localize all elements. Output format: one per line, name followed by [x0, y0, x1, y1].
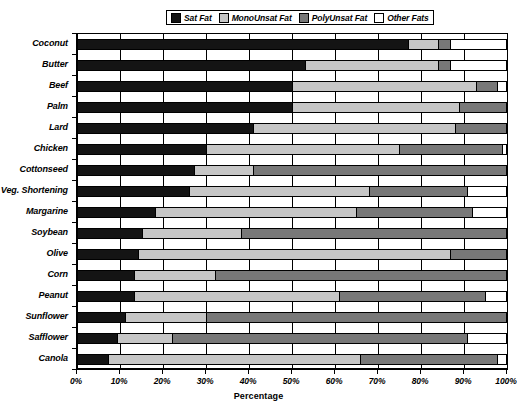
y-axis-label: Canola — [39, 353, 68, 363]
bar-segment — [497, 355, 506, 364]
stacked-bar[interactable] — [77, 186, 507, 197]
x-axis-tick-label: 30% — [197, 376, 214, 386]
stacked-bar[interactable] — [77, 333, 507, 344]
bar-row — [77, 144, 507, 155]
stacked-bar[interactable] — [77, 165, 507, 176]
stacked-bar[interactable] — [77, 60, 507, 71]
y-axis-label: Veg. Shortening — [1, 185, 68, 195]
bar-row — [77, 123, 507, 134]
bar-segment — [438, 61, 451, 70]
stacked-bar[interactable] — [77, 249, 507, 260]
stacked-bar[interactable] — [77, 312, 507, 323]
y-axis-tick — [72, 54, 76, 55]
bar-segment — [450, 40, 506, 49]
legend-label: Other Fats — [387, 13, 429, 23]
bar-segment — [215, 271, 506, 280]
bar-segment — [502, 145, 506, 154]
stacked-bar[interactable] — [77, 270, 507, 281]
y-axis-label: Olive — [46, 248, 68, 258]
x-axis-tick — [377, 369, 378, 374]
bar-segment — [142, 229, 240, 238]
y-axis-tick — [72, 117, 76, 118]
bar-segment — [78, 103, 292, 112]
chart-legend: Sat FatMonoUnsat FatPolyUnsat FatOther F… — [166, 10, 434, 25]
x-axis-tick — [205, 369, 206, 374]
bar-row — [77, 102, 507, 113]
stacked-bar[interactable] — [77, 81, 507, 92]
y-axis-label: Peanut — [39, 290, 68, 300]
legend-entry: Sat Fat — [171, 13, 212, 23]
bar-segment — [78, 334, 117, 343]
bar-segment — [78, 145, 206, 154]
stacked-bar[interactable] — [77, 39, 507, 50]
stacked-bar[interactable] — [77, 123, 507, 134]
bar-segment — [450, 61, 506, 70]
bar-segment — [78, 166, 194, 175]
bar-segment — [78, 292, 134, 301]
legend-swatch-icon — [219, 13, 229, 23]
plot-area — [76, 33, 508, 369]
y-axis-label: Beef — [49, 80, 68, 90]
bar-segment — [189, 187, 369, 196]
bar-segment — [172, 334, 467, 343]
bar-row — [77, 270, 507, 281]
legend-swatch-icon — [171, 13, 181, 23]
bar-segment — [292, 82, 476, 91]
bar-segment — [125, 313, 206, 322]
bar-segment — [78, 82, 292, 91]
bar-segment — [78, 124, 253, 133]
bar-segment — [78, 355, 108, 364]
y-axis-label: Margarine — [26, 206, 68, 216]
stacked-bar[interactable] — [77, 102, 507, 113]
y-axis-label: Corn — [47, 269, 68, 279]
x-axis-tick-label: 20% — [154, 376, 171, 386]
x-axis-tick-label: 40% — [240, 376, 257, 386]
y-axis-tick — [72, 138, 76, 139]
y-axis-label: Soybean — [31, 227, 68, 237]
y-axis-tick — [72, 180, 76, 181]
bar-segment — [78, 40, 408, 49]
y-axis-tick — [72, 33, 76, 34]
bar-row — [77, 333, 507, 344]
bar-segment — [78, 208, 155, 217]
stacked-bar[interactable] — [77, 354, 507, 365]
bar-segment — [206, 145, 399, 154]
bar-segment — [194, 166, 254, 175]
bar-segment — [305, 61, 438, 70]
y-axis-tick — [72, 264, 76, 265]
x-axis-title: Percentage — [0, 391, 517, 401]
bar-segment — [206, 313, 506, 322]
bar-row — [77, 312, 507, 323]
bar-row — [77, 81, 507, 92]
bar-segment — [78, 313, 125, 322]
y-axis-label: Sunflower — [25, 311, 68, 321]
bar-segment — [134, 271, 215, 280]
y-axis-label: Chicken — [34, 143, 68, 153]
x-axis-tick — [248, 369, 249, 374]
stacked-bar[interactable] — [77, 291, 507, 302]
x-axis-tick — [162, 369, 163, 374]
legend-swatch-icon — [299, 13, 309, 23]
bar-segment — [292, 103, 459, 112]
bar-segment — [476, 82, 497, 91]
legend-label: MonoUnsat Fat — [232, 13, 292, 23]
y-axis-label: Butter — [42, 59, 68, 69]
bar-segment — [241, 229, 506, 238]
stacked-bar-chart: Sat FatMonoUnsat FatPolyUnsat FatOther F… — [0, 0, 517, 410]
y-axis-tick — [72, 348, 76, 349]
y-axis-label: Lard — [49, 122, 68, 132]
legend-entry: MonoUnsat Fat — [219, 13, 292, 23]
y-axis-tick — [72, 306, 76, 307]
y-axis-tick — [72, 327, 76, 328]
stacked-bar[interactable] — [77, 144, 507, 155]
stacked-bar[interactable] — [77, 228, 507, 239]
bar-segment — [138, 250, 450, 259]
bar-segment — [455, 124, 506, 133]
legend-label: PolyUnsat Fat — [312, 13, 367, 23]
y-axis-tick — [72, 285, 76, 286]
x-axis-tick-label: 80% — [412, 376, 429, 386]
bar-segment — [360, 355, 497, 364]
stacked-bar[interactable] — [77, 207, 507, 218]
bar-segment — [108, 355, 361, 364]
bar-segment — [253, 166, 506, 175]
